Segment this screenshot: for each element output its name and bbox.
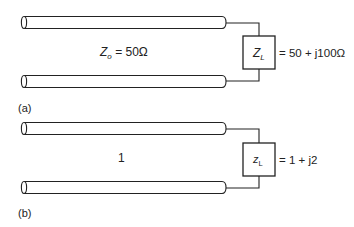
caption-a: (a): [18, 102, 31, 114]
caption-b: (b): [18, 207, 31, 219]
panel-b: zL = 1 + j2 1 (b): [18, 123, 317, 220]
load-value-b: = 1 + j2: [279, 154, 317, 166]
transmission-line-diagram: ZL = 50 + j100Ω Zo = 50Ω (a) zL = 1 + j2…: [0, 0, 354, 227]
load-value-a: = 50 + j100Ω: [279, 47, 346, 59]
wire-top-a: [226, 23, 259, 36]
line-impedance-label-a: Zo = 50Ω: [99, 45, 148, 61]
wire-bottom-b: [226, 176, 259, 188]
top-conductor-b: [21, 123, 226, 135]
bottom-conductor-b: [21, 182, 226, 194]
panel-a: ZL = 50 + j100Ω Zo = 50Ω (a): [18, 17, 346, 115]
wire-bottom-a: [226, 69, 259, 81]
bottom-conductor-a: [21, 76, 226, 88]
top-conductor-a: [21, 17, 226, 29]
line-impedance-label-b: 1: [118, 151, 125, 165]
wire-top-b: [226, 129, 259, 143]
